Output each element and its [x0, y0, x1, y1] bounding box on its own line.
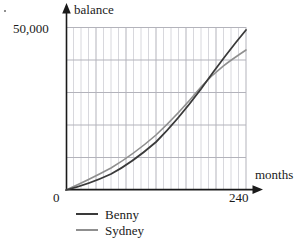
legend-swatch-benny — [76, 213, 98, 215]
legend-item-benny: Benny — [76, 206, 216, 222]
x-axis-origin-label: 0 — [53, 191, 60, 204]
chart-legend: Benny Sydney — [76, 206, 216, 238]
x-axis-title: months — [255, 168, 293, 181]
legend-label-benny: Benny — [105, 208, 139, 221]
chart-figure: 50,000 balance months 0 240 Benny Sydney — [0, 0, 295, 239]
legend-item-sydney: Sydney — [76, 222, 216, 238]
legend-swatch-sydney — [76, 229, 98, 231]
legend-label-sydney: Sydney — [105, 224, 144, 237]
y-axis — [62, 3, 71, 190]
y-axis-title: balance — [74, 3, 114, 16]
x-axis-max-tick-label: 240 — [229, 191, 249, 204]
y-axis-max-tick-label: 50,000 — [13, 22, 49, 35]
